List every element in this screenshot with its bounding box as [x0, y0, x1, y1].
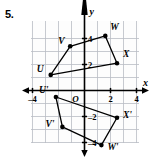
x-axis-arrow-left [81, 0, 87, 15]
x-tick-label: 2 [108, 94, 112, 104]
point-label-X: X [122, 49, 130, 59]
data-point-V' [60, 125, 65, 130]
data-point-X [115, 61, 120, 66]
data-point-W [103, 34, 108, 39]
x-axis-arrow [142, 87, 149, 93]
point-label-W: W [110, 22, 119, 32]
data-point-W' [99, 143, 104, 148]
y-axis-label: y [89, 6, 95, 17]
coordinate-plane: –42442–2–4O UVWXU'V'W'X' yx [0, 0, 157, 159]
x-axis-label: x [142, 77, 148, 88]
coordinate-plane-svg: –42442–2–4O UVWXU'V'W'X' yx [0, 0, 157, 159]
origin-label: O [72, 94, 79, 104]
point-label-W': W' [107, 142, 118, 152]
point-label-U: U [37, 64, 45, 74]
x-tick-label: –4 [27, 94, 37, 104]
data-point-V [68, 44, 73, 49]
data-point-X' [115, 116, 120, 121]
y-tick-label: –2 [87, 112, 97, 122]
y-axis-arrow-down [81, 150, 87, 157]
data-point-U [48, 73, 53, 78]
problem-figure: 5. –42442–2–4O UVWXU'V'W'X' yx [0, 0, 157, 159]
point-label-U': U' [39, 85, 49, 95]
data-point-U' [54, 95, 59, 100]
point-label-X': X' [122, 110, 132, 120]
point-label-V': V' [45, 119, 54, 129]
point-label-V: V [58, 36, 65, 46]
